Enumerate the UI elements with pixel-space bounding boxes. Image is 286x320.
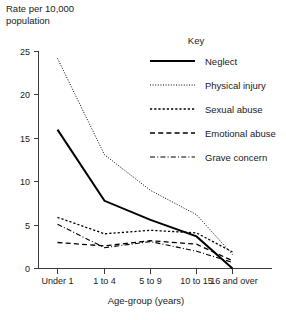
legend-item-sexual-abuse[interactable]: Sexual abuse	[150, 104, 263, 115]
x-tick-label-3: 10 to 15	[180, 276, 213, 286]
legend-item-physical-injury[interactable]: Physical injury	[150, 80, 266, 91]
x-tick-label-0: Under 1	[41, 276, 73, 286]
legend: Key Neglect Physical injury Sexual abuse…	[150, 35, 276, 163]
y-axis-tick-labels: 25 20 15 10 5 0	[20, 47, 30, 274]
legend-item-grave-concern[interactable]: Grave concern	[150, 152, 267, 163]
legend-label-sexual-abuse: Sexual abuse	[205, 104, 263, 115]
y-tick-label-25: 25	[20, 47, 30, 57]
y-axis: 25 20 15 10 5 0	[20, 47, 39, 274]
legend-item-neglect[interactable]: Neglect	[150, 56, 238, 67]
y-tick-label-5: 5	[25, 221, 30, 231]
x-tick-label-1: 1 to 4	[93, 276, 116, 286]
y-axis-ticks	[34, 52, 39, 269]
x-axis-ticks	[58, 269, 233, 274]
legend-label-grave-concern: Grave concern	[205, 152, 267, 163]
legend-title: Key	[188, 35, 205, 46]
chart-canvas: 25 20 15 10 5 0 Under 1 1 to 4 5 to 9	[0, 0, 286, 320]
x-axis-title: Age-group (years)	[108, 295, 185, 306]
x-tick-label-2: 5 to 9	[139, 276, 162, 286]
y-tick-label-0: 0	[25, 264, 30, 274]
series-line-emotional-abuse	[58, 241, 233, 261]
y-tick-label-10: 10	[20, 177, 30, 187]
series-line-neglect	[58, 130, 233, 269]
y-tick-label-20: 20	[20, 90, 30, 100]
legend-item-emotional-abuse[interactable]: Emotional abuse	[150, 128, 276, 139]
series-line-grave-concern	[58, 224, 233, 262]
x-axis: Under 1 1 to 4 5 to 9 10 to 15 16 and ov…	[39, 269, 273, 307]
legend-label-physical-injury: Physical injury	[205, 80, 266, 91]
y-tick-label-15: 15	[20, 134, 30, 144]
legend-label-neglect: Neglect	[205, 56, 238, 67]
series-line-sexual-abuse	[58, 217, 233, 252]
legend-label-emotional-abuse: Emotional abuse	[205, 128, 276, 139]
x-tick-label-4: 16 and over	[210, 276, 258, 286]
chart-figure: Rate per 10,000 population 25 20 15 10 5…	[0, 0, 286, 320]
x-axis-tick-labels: Under 1 1 to 4 5 to 9 10 to 15 16 and ov…	[41, 276, 257, 286]
